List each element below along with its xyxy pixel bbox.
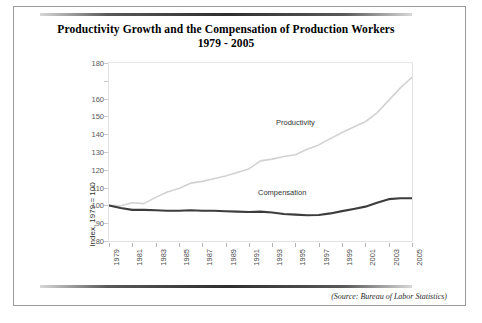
source-note: (Source: Bureau of Labor Statistics) [0, 292, 447, 301]
x-tick-label: 1981 [135, 249, 144, 266]
x-tick-mark [365, 243, 366, 247]
y-tick-label: 100 [80, 201, 104, 210]
x-tick-label: 1997 [322, 249, 331, 266]
x-tick-mark [319, 243, 320, 247]
y-tick-label: 150 [80, 112, 104, 121]
y-tick-label: 180 [80, 59, 104, 68]
series-lines [109, 63, 412, 241]
x-tick-label: 2001 [368, 249, 377, 266]
y-tick-label: 160 [80, 94, 104, 103]
x-tick-mark [249, 243, 250, 247]
x-tick-label: 1993 [275, 249, 284, 266]
y-tick-mark [104, 134, 108, 135]
series-line-compensation [109, 198, 412, 215]
x-tick-label: 2003 [392, 249, 401, 266]
y-tick-mark [104, 188, 108, 189]
y-tick-label: 120 [80, 165, 104, 174]
y-tick-label: 90 [80, 219, 104, 228]
x-tick-mark [226, 243, 227, 247]
series-label-productivity: Productivity [276, 118, 315, 127]
y-tick-mark [104, 205, 108, 206]
y-tick-mark [104, 81, 108, 82]
y-tick-mark [104, 223, 108, 224]
x-tick-mark [389, 243, 390, 247]
x-tick-mark [156, 243, 157, 247]
y-tick-mark [104, 63, 108, 64]
x-tick-label: 1989 [229, 249, 238, 266]
x-axis-ticks: 1979198119831985198719891991199319951997… [108, 243, 413, 283]
x-tick-label: 2005 [415, 249, 424, 266]
chart-page: Productivity Growth and the Compensation… [0, 0, 482, 323]
x-tick-mark [342, 243, 343, 247]
y-tick-label: 110 [80, 183, 104, 192]
y-axis-title-container: Index, 1979 = 100 [62, 92, 76, 212]
x-tick-mark [202, 243, 203, 247]
x-tick-label: 1987 [205, 249, 214, 266]
y-tick-mark [104, 241, 108, 242]
y-tick-mark [104, 99, 108, 100]
plot-area [108, 62, 413, 242]
x-tick-mark [412, 243, 413, 247]
x-tick-label: 1979 [112, 249, 121, 266]
y-tick-label: 130 [80, 148, 104, 157]
y-tick-label: 80 [80, 237, 104, 246]
series-line-productivity [109, 77, 412, 206]
x-tick-mark [132, 243, 133, 247]
x-tick-label: 1991 [252, 249, 261, 266]
x-tick-label: 1995 [298, 249, 307, 266]
y-tick-mark [104, 152, 108, 153]
y-axis-ticks: 1801601501401301201101009080 [78, 62, 104, 242]
x-tick-label: 1983 [159, 249, 168, 266]
x-tick-mark [179, 243, 180, 247]
plot-wrapper: Index, 1979 = 100 1801601501401301201101… [0, 0, 482, 323]
x-tick-label: 1985 [182, 249, 191, 266]
y-tick-mark [104, 116, 108, 117]
x-tick-mark [295, 243, 296, 247]
x-tick-label: 1999 [345, 249, 354, 266]
x-tick-mark [109, 243, 110, 247]
series-label-compensation: Compensation [258, 188, 306, 197]
x-tick-mark [272, 243, 273, 247]
y-tick-mark [104, 170, 108, 171]
y-tick-label: 140 [80, 130, 104, 139]
